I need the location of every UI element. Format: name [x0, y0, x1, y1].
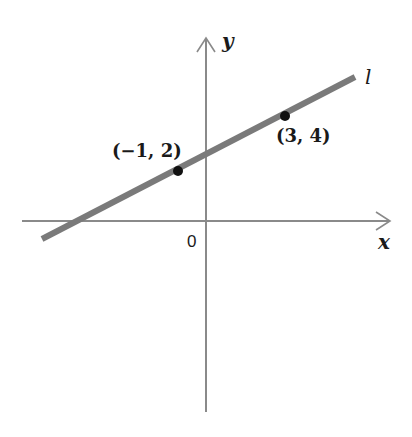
point-label-3-4: (3, 4) — [276, 125, 331, 146]
point-label-neg1-2: (−1, 2) — [112, 140, 182, 161]
point-neg1-2 — [173, 166, 183, 176]
coordinate-plane: y x 0 l (−1, 2) (3, 4) — [0, 0, 412, 437]
x-axis-label: x — [377, 230, 391, 254]
y-axis-label: y — [221, 29, 235, 53]
line-label: l — [365, 65, 371, 89]
y-axis — [197, 38, 215, 412]
line-l — [42, 77, 355, 239]
point-3-4 — [280, 111, 290, 121]
origin-label: 0 — [187, 232, 196, 251]
